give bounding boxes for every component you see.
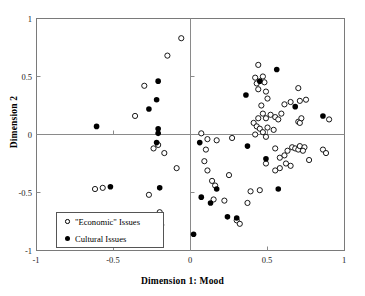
legend-item-economic: "Economic" Issues	[57, 213, 163, 230]
legend-label-economic: "Economic" Issues	[73, 217, 140, 227]
data-point-economic	[203, 147, 208, 152]
data-point-economic	[296, 86, 301, 91]
data-point-economic	[263, 116, 268, 121]
data-point-cultural	[155, 78, 161, 84]
data-point-cultural	[245, 143, 251, 149]
data-point-economic	[100, 185, 105, 190]
plot-area	[0, 0, 365, 296]
data-point-economic	[259, 103, 264, 108]
data-point-economic	[263, 89, 268, 94]
x-axis-title: Dimension 1: Mood	[0, 276, 365, 286]
data-point-economic	[277, 166, 282, 171]
data-point-economic	[279, 111, 284, 116]
data-point-economic	[323, 150, 328, 155]
data-point-cultural	[94, 124, 100, 130]
data-point-economic	[256, 62, 261, 67]
data-point-economic	[276, 117, 281, 122]
data-point-economic	[288, 99, 293, 104]
xtick-label-0: 0	[173, 255, 207, 265]
data-point-cultural	[108, 184, 114, 190]
data-point-economic	[262, 80, 267, 85]
data-point-economic	[260, 130, 265, 135]
ytick-label-1: 1	[8, 14, 32, 24]
data-point-cultural	[154, 97, 160, 103]
data-point-economic	[165, 53, 170, 58]
data-point-economic	[263, 161, 268, 166]
data-point-cultural	[234, 215, 240, 221]
data-point-cultural	[292, 104, 298, 110]
y-axis-title: Dimension 2	[9, 62, 19, 182]
data-point-economic	[288, 163, 293, 168]
data-point-economic	[214, 138, 219, 143]
data-point-economic	[253, 75, 258, 80]
data-point-economic	[306, 157, 311, 162]
data-point-economic	[174, 166, 179, 171]
data-point-cultural	[197, 140, 203, 146]
data-point-economic	[297, 98, 302, 103]
data-point-economic	[282, 102, 287, 107]
ytick-label-neg0.5: -0.5	[8, 188, 32, 198]
data-point-economic	[226, 173, 231, 178]
xtick-label-1: 1	[327, 255, 361, 265]
data-point-economic	[92, 186, 97, 191]
data-point-cultural	[274, 67, 280, 73]
data-point-economic	[151, 146, 156, 151]
xtick-label-neg1: -1	[19, 255, 53, 265]
data-point-economic	[132, 113, 137, 118]
xtick-label-neg0.5: -0.5	[96, 255, 130, 265]
data-point-economic	[271, 127, 276, 132]
data-point-economic	[142, 83, 147, 88]
legend-item-cultural: Cultural Issues	[57, 230, 163, 247]
filled-circle-icon	[62, 236, 73, 241]
data-point-cultural	[275, 186, 281, 192]
data-point-cultural	[157, 185, 163, 191]
data-point-economic	[162, 150, 167, 155]
data-point-economic	[222, 198, 227, 203]
data-point-economic	[256, 87, 261, 92]
data-point-economic	[285, 148, 290, 153]
data-point-cultural	[154, 140, 160, 146]
data-point-cultural	[225, 214, 231, 220]
chart-legend: "Economic" Issues Cultural Issues	[56, 212, 164, 248]
data-point-cultural	[146, 106, 152, 112]
data-point-economic	[237, 221, 242, 226]
data-point-economic	[256, 116, 261, 121]
data-point-economic	[260, 74, 265, 79]
data-point-economic	[300, 148, 305, 153]
data-point-cultural	[155, 131, 161, 137]
data-point-cultural	[191, 231, 197, 237]
data-point-economic	[179, 36, 184, 41]
data-point-economic	[265, 125, 270, 130]
legend-label-cultural: Cultural Issues	[73, 234, 126, 244]
data-point-economic	[245, 200, 250, 205]
data-point-cultural	[214, 186, 220, 192]
data-point-economic	[248, 189, 253, 194]
data-point-cultural	[208, 200, 214, 206]
data-point-economic	[282, 153, 287, 158]
data-point-economic	[205, 168, 210, 173]
data-point-economic	[303, 97, 308, 102]
data-point-economic	[263, 134, 268, 139]
data-point-economic	[260, 111, 265, 116]
data-point-cultural	[263, 156, 269, 162]
data-point-cultural	[198, 194, 204, 200]
data-point-cultural	[257, 78, 263, 84]
open-circle-icon	[62, 219, 73, 223]
data-point-economic	[253, 132, 258, 137]
data-point-economic	[146, 192, 151, 197]
data-point-economic	[199, 131, 204, 136]
xtick-label-0.5: 0.5	[250, 255, 284, 265]
data-point-economic	[229, 135, 234, 140]
data-point-economic	[257, 188, 262, 193]
data-point-economic	[273, 146, 278, 151]
data-point-economic	[205, 137, 210, 142]
data-point-economic	[327, 117, 332, 122]
data-point-economic	[299, 116, 304, 121]
scatter-plot-figure: 1 0.5 0 -0.5 -1 -1 -0.5 0 0.5 1 Dimensio…	[0, 0, 365, 296]
data-point-cultural	[243, 92, 249, 98]
data-point-cultural	[320, 113, 326, 119]
data-point-economic	[202, 159, 207, 164]
data-point-economic	[209, 178, 214, 183]
data-point-economic	[265, 96, 270, 101]
